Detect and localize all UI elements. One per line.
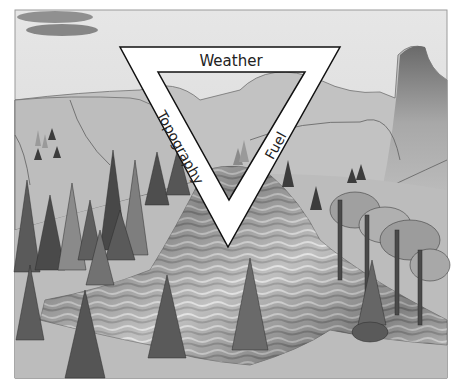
fire-triangle-illustration: Weather Topography Fuel [0,0,458,387]
label-weather: Weather [199,52,263,70]
